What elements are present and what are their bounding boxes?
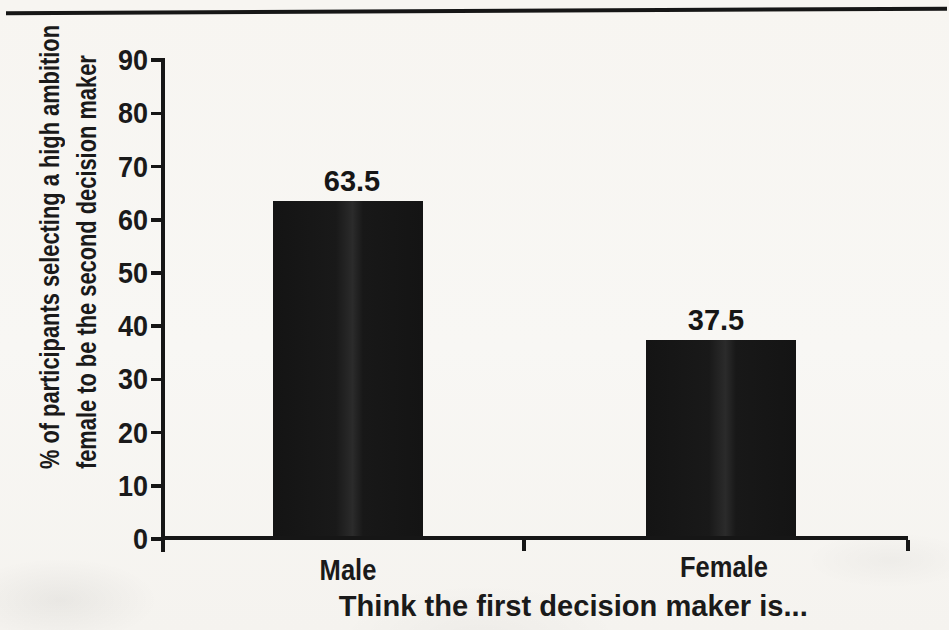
x-axis-title: Think the first decision maker is... xyxy=(339,591,777,621)
y-tick-label-40: 40 xyxy=(81,311,148,341)
y-tick-label-70: 70 xyxy=(81,152,148,182)
y-tick-90 xyxy=(151,58,162,62)
x-category-label-male: Male xyxy=(251,556,445,584)
y-tick-label-0: 0 xyxy=(81,524,148,554)
y-tick-label-80: 80 xyxy=(81,98,148,128)
y-axis-line xyxy=(161,58,165,552)
y-tick-60 xyxy=(151,218,162,222)
bar-chart: % of participants selecting a high ambit… xyxy=(0,0,949,630)
bar-male xyxy=(273,201,423,536)
bar-female xyxy=(646,340,796,537)
bar-value-label-female: 37.5 xyxy=(636,306,796,334)
y-tick-50 xyxy=(151,271,162,275)
y-axis-title-line-1: % of participants selecting a high ambit… xyxy=(31,87,68,469)
scanned-page: % of participants selecting a high ambit… xyxy=(0,0,949,630)
y-tick-0 xyxy=(151,537,162,541)
x-tick-2 xyxy=(906,540,910,551)
y-tick-70 xyxy=(151,165,162,169)
y-tick-label-20: 20 xyxy=(81,418,148,448)
y-tick-label-10: 10 xyxy=(81,471,148,501)
y-tick-label-90: 90 xyxy=(81,45,148,75)
x-axis-line xyxy=(161,536,908,540)
y-tick-40 xyxy=(151,324,162,328)
x-category-label-female: Female xyxy=(627,553,821,581)
y-tick-30 xyxy=(151,378,162,382)
y-tick-20 xyxy=(151,431,162,435)
y-tick-label-30: 30 xyxy=(81,364,148,394)
y-tick-label-60: 60 xyxy=(81,205,148,235)
y-tick-80 xyxy=(151,112,162,116)
y-tick-label-50: 50 xyxy=(81,258,148,288)
bar-value-label-male: 63.5 xyxy=(272,167,432,195)
x-tick-1 xyxy=(522,540,526,551)
y-tick-10 xyxy=(151,484,162,488)
